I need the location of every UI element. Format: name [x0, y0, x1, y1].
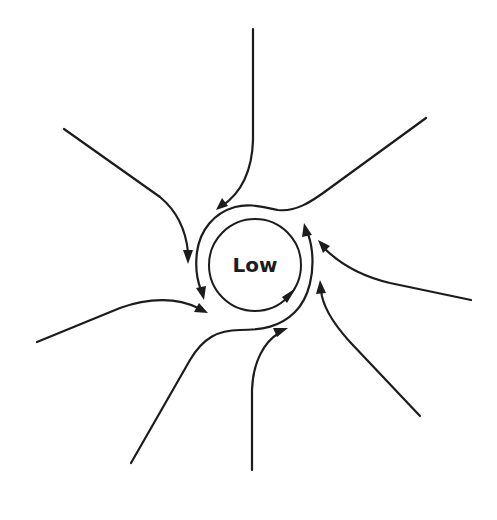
low-pressure-diagram: Low	[0, 0, 497, 520]
flow-arrowhead-south-east-icon	[316, 280, 326, 294]
flow-line-south	[252, 333, 279, 470]
flow-line-north	[222, 29, 253, 206]
flow-line-north-east-circulation	[196, 118, 426, 290]
flow-line-south-west-circulation	[131, 232, 312, 463]
flow-arrowhead-north-west-icon	[183, 250, 193, 264]
flow-line-east	[324, 248, 471, 300]
flow-arrowhead-outer-right-icon	[302, 223, 312, 237]
flow-line-north-west	[64, 129, 188, 252]
flow-arrowhead-north-icon	[216, 198, 228, 210]
low-pressure-label: Low	[233, 253, 278, 277]
flow-line-west	[37, 300, 198, 342]
flow-arrowhead-outer-left-icon	[196, 286, 206, 300]
flow-line-south-east	[321, 290, 420, 416]
